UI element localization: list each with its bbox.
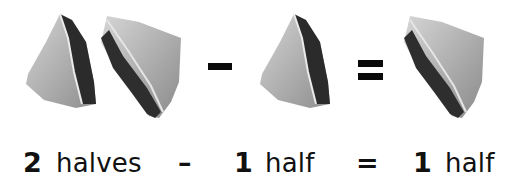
equals-operator-text: = (356, 146, 379, 180)
term2-number: 1 (234, 146, 253, 180)
sandwich-half-icon (99, 12, 185, 120)
minus-operator-text: – (178, 146, 192, 180)
sandwich-half-icon (258, 12, 334, 108)
term2-unit: half (265, 146, 315, 180)
term3-number: 1 (413, 146, 432, 180)
term1-unit: halves (56, 146, 142, 180)
equals-operator-bottom-bar (358, 73, 383, 80)
equals-operator-top-bar (358, 60, 383, 67)
term1-number: 2 (23, 146, 42, 180)
minus-operator-icon (208, 63, 232, 70)
sandwich-half-icon (402, 12, 488, 120)
sandwich-half-icon (24, 12, 100, 108)
term3-unit: half (445, 146, 495, 180)
